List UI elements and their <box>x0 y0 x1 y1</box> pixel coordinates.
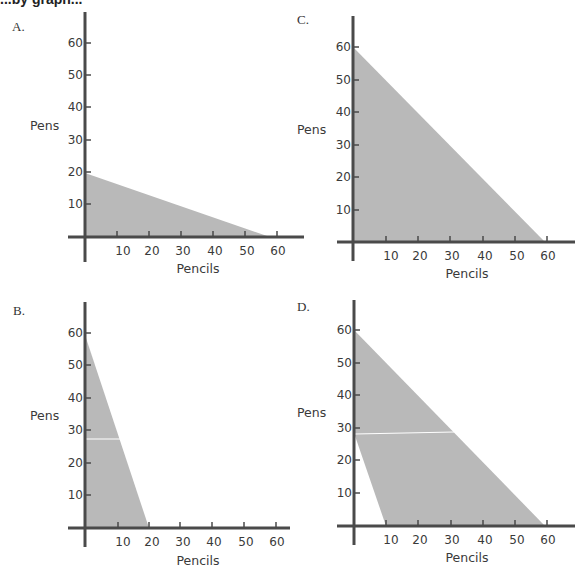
svg-text:20: 20 <box>412 249 427 263</box>
svg-text:50: 50 <box>509 249 524 263</box>
feasible-region <box>354 330 545 526</box>
panel-b: B. 60 50 40 30 20 10 10 20 30 40 50 <box>13 302 290 568</box>
svg-text:30: 30 <box>68 423 83 437</box>
svg-text:50: 50 <box>337 356 352 370</box>
svg-text:50: 50 <box>239 244 254 258</box>
x-tick-labels: 10 20 30 40 50 60 <box>383 249 555 263</box>
x-axis-title: Pencils <box>445 266 488 281</box>
svg-text:10: 10 <box>68 197 83 211</box>
x-axis-title: Pencils <box>445 550 488 565</box>
panel-label: C. <box>297 12 309 27</box>
x-tick-labels: 10 20 30 40 50 60 <box>383 533 555 547</box>
x-tick-labels: 10 20 30 40 50 60 <box>115 535 284 549</box>
svg-text:60: 60 <box>270 244 285 258</box>
x-axis-title: Pencils <box>176 261 219 276</box>
svg-text:10: 10 <box>68 488 83 502</box>
svg-text:40: 40 <box>206 535 221 549</box>
svg-text:10: 10 <box>383 533 398 547</box>
svg-text:30: 30 <box>444 533 459 547</box>
svg-text:10: 10 <box>115 244 130 258</box>
svg-text:50: 50 <box>68 68 83 82</box>
svg-text:30: 30 <box>444 249 459 263</box>
x-axis-title: Pencils <box>176 553 219 568</box>
panel-c: C. 60 50 40 30 20 10 10 20 30 40 50 <box>297 12 575 281</box>
y-tick-labels: 60 50 40 30 20 10 <box>68 36 83 211</box>
svg-text:10: 10 <box>383 249 398 263</box>
svg-text:30: 30 <box>68 133 83 147</box>
panel-a: A. 60 50 40 30 20 10 10 20 30 40 50 <box>12 12 304 276</box>
svg-text:40: 40 <box>477 249 492 263</box>
svg-text:40: 40 <box>337 388 352 402</box>
svg-text:30: 30 <box>175 244 190 258</box>
svg-text:20: 20 <box>68 165 83 179</box>
y-tick-labels: 60 50 40 30 20 10 <box>68 326 83 502</box>
svg-text:40: 40 <box>477 533 492 547</box>
svg-text:50: 50 <box>68 358 83 372</box>
svg-text:30: 30 <box>336 138 351 152</box>
y-tick-labels: 60 50 40 30 20 10 <box>336 40 351 217</box>
figure: A. 60 50 40 30 20 10 10 20 30 40 50 <box>0 0 586 573</box>
svg-text:20: 20 <box>144 244 159 258</box>
svg-text:60: 60 <box>540 249 555 263</box>
svg-text:60: 60 <box>337 323 352 337</box>
svg-text:60: 60 <box>336 40 351 54</box>
feasible-region <box>85 173 270 237</box>
y-axis-title: Pens <box>297 122 326 137</box>
svg-text:60: 60 <box>68 36 83 50</box>
svg-text:10: 10 <box>336 203 351 217</box>
svg-text:60: 60 <box>540 533 555 547</box>
svg-text:50: 50 <box>238 535 253 549</box>
svg-text:30: 30 <box>337 421 352 435</box>
svg-text:20: 20 <box>412 533 427 547</box>
panel-d: D. 60 50 40 30 20 10 10 20 30 40 50 <box>297 299 575 565</box>
svg-text:50: 50 <box>509 533 524 547</box>
svg-text:40: 40 <box>207 244 222 258</box>
x-tick-labels: 10 20 30 40 50 60 <box>115 244 285 258</box>
y-axis-title: Pens <box>297 405 326 420</box>
y-tick-labels: 60 50 40 30 20 10 <box>337 323 352 500</box>
svg-text:60: 60 <box>68 326 83 340</box>
feasible-region <box>353 47 545 242</box>
svg-text:30: 30 <box>175 535 190 549</box>
svg-text:10: 10 <box>115 535 130 549</box>
feasible-region <box>85 335 149 528</box>
svg-text:10: 10 <box>337 486 352 500</box>
svg-text:20: 20 <box>68 456 83 470</box>
panel-label: A. <box>12 19 25 34</box>
svg-text:40: 40 <box>336 105 351 119</box>
svg-text:20: 20 <box>144 535 159 549</box>
svg-text:50: 50 <box>336 73 351 87</box>
svg-text:40: 40 <box>68 100 83 114</box>
svg-text:40: 40 <box>68 391 83 405</box>
svg-text:20: 20 <box>337 453 352 467</box>
y-axis-title: Pens <box>30 118 59 133</box>
svg-text:60: 60 <box>269 535 284 549</box>
panel-label: D. <box>297 299 310 314</box>
svg-text:20: 20 <box>336 170 351 184</box>
y-axis-title: Pens <box>30 408 59 423</box>
panel-label: B. <box>13 303 25 318</box>
